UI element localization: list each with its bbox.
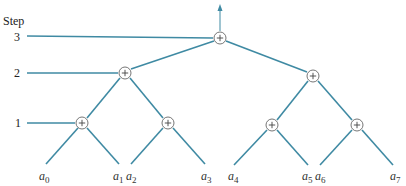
adder-node-step1-c bbox=[266, 119, 278, 131]
step-label-1: 1 bbox=[15, 117, 21, 129]
leaf-label-a5: a5 bbox=[302, 170, 313, 185]
reduction-tree-diagram bbox=[0, 0, 406, 186]
tree-edges bbox=[46, 41, 393, 165]
adder-node-step3 bbox=[214, 32, 226, 44]
leaf-label-a7: a7 bbox=[390, 170, 401, 185]
leaf-label-a4: a4 bbox=[228, 170, 239, 185]
leaf-label-a1: a1 bbox=[113, 170, 124, 185]
adder-node-step1-b bbox=[162, 117, 174, 129]
adder-node-step1-d bbox=[351, 119, 363, 131]
adder-node-step2-left bbox=[119, 67, 131, 79]
step-label-3: 3 bbox=[14, 31, 20, 43]
leaf-label-a0: a0 bbox=[39, 170, 50, 185]
step-axis-title: Step bbox=[3, 15, 24, 27]
output-arrow-icon bbox=[218, 4, 223, 31]
leaf-label-a3: a3 bbox=[201, 170, 212, 185]
step-label-2: 2 bbox=[14, 67, 20, 79]
leaf-label-a2: a2 bbox=[126, 170, 137, 185]
leaf-label-a6: a6 bbox=[315, 170, 326, 185]
adder-node-step2-right bbox=[307, 70, 319, 82]
adder-node-step1-a bbox=[76, 117, 88, 129]
step-3-guide-line bbox=[27, 36, 213, 38]
